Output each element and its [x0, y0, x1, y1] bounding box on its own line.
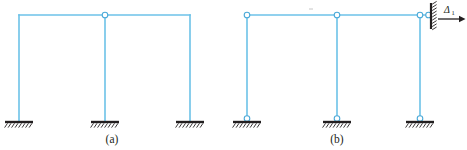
figure-root: (a)	[0, 0, 467, 150]
delta-subscript: 1	[452, 9, 455, 16]
hinge-top-middle-b	[334, 12, 340, 18]
displacement-arrow-delta1: Δ 1	[438, 4, 466, 22]
fixed-support-middle-a	[91, 122, 119, 128]
panel-b: Δ 1 (b)	[233, 1, 466, 146]
fixed-support-right-a	[176, 122, 204, 128]
hinge-top-middle-a	[102, 12, 108, 18]
hinge-top-right-b	[417, 12, 423, 18]
pinned-support-middle-b	[323, 122, 351, 128]
pinned-support-left-b	[233, 122, 261, 128]
hinge-base-middle-b	[334, 116, 340, 122]
frame-diagram-svg: (a)	[0, 0, 467, 150]
pinned-support-right-b	[406, 122, 434, 128]
hinge-base-left-b	[244, 116, 250, 122]
support-wall-right-b	[431, 1, 437, 29]
caption-b: (b)	[330, 133, 344, 146]
hinge-top-left-b	[244, 12, 250, 18]
delta-label: Δ	[443, 4, 450, 15]
panel-a: (a)	[5, 12, 204, 146]
caption-a: (a)	[106, 133, 119, 146]
hinge-base-right-b	[417, 116, 423, 122]
fixed-support-left-a	[5, 122, 33, 128]
